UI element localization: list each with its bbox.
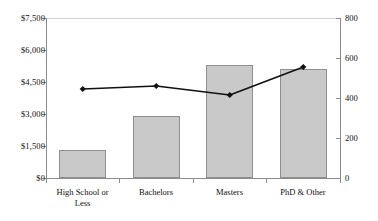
tick-right-200	[336, 138, 341, 139]
bar-phd-and-other[interactable]	[280, 69, 327, 178]
tick-right-600	[336, 58, 341, 59]
axis-line-left	[46, 18, 47, 179]
x-axis-label-bachelors: Bachelors	[119, 187, 193, 198]
x-axis-label-line2: Less	[46, 198, 119, 209]
x-axis-label-line1: High School or	[46, 187, 119, 198]
x-axis-label-line1: Bachelors	[119, 187, 193, 198]
line-marker-1[interactable]	[153, 83, 159, 89]
y-axis-right-label-400: 400	[345, 94, 358, 103]
chart-container: $7,500 $6,000 $4,500 $3,000 $1,500 $0 80…	[0, 0, 378, 221]
line-series-markers	[80, 64, 307, 98]
bar-bachelors[interactable]	[133, 116, 180, 178]
bar-masters[interactable]	[206, 65, 253, 178]
tick-right-800	[336, 18, 341, 19]
x-axis-label-line1: Masters	[193, 187, 266, 198]
tick-x-boundary-2	[193, 179, 194, 183]
plot-frame-top	[46, 18, 341, 19]
x-axis-label-phd-and-other: PhD & Other	[266, 187, 340, 198]
tick-x-boundary-1	[119, 179, 120, 183]
bar-high-school-or-less[interactable]	[59, 150, 106, 178]
y-axis-left-label-4500: $4,500	[21, 78, 45, 87]
y-axis-right-label-800: 800	[345, 14, 358, 23]
y-axis-left-label-7500: $7,500	[21, 14, 45, 23]
y-axis-right-label-600: 600	[345, 54, 358, 63]
x-axis-label-high-school-or-less: High School or Less	[46, 187, 119, 208]
y-axis-left-label-1500: $1,500	[21, 142, 45, 151]
tick-x-boundary-3	[266, 179, 267, 183]
y-axis-left-label-6000: $6,000	[21, 46, 45, 55]
line-marker-0[interactable]	[80, 86, 86, 92]
x-axis-label-masters: Masters	[193, 187, 266, 198]
tick-right-400	[336, 98, 341, 99]
y-axis-right-label-0: 0	[345, 174, 349, 183]
y-axis-left-label-3000: $3,000	[21, 110, 45, 119]
y-axis-right-label-200: 200	[345, 134, 358, 143]
tick-x-boundary-0	[46, 179, 47, 183]
tick-x-boundary-4	[340, 179, 341, 183]
line-series-path	[83, 67, 303, 95]
y-axis-left-label-0: $0	[36, 174, 45, 183]
x-axis-label-line1: PhD & Other	[266, 187, 340, 198]
